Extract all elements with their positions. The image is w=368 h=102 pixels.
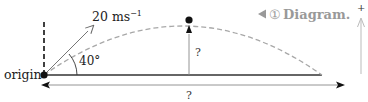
range-unknown-label: ?: [186, 89, 192, 102]
tag-pointer-icon: [258, 10, 266, 19]
apex-ball: [185, 16, 192, 23]
velocity-exponent: −1: [130, 9, 142, 18]
tag-label: Diagram.: [283, 7, 350, 22]
tag-number: ①: [269, 7, 281, 22]
origin-label: origin: [4, 67, 42, 82]
height-unknown-label: ?: [195, 46, 201, 59]
velocity-label: 20 ms−1: [92, 9, 142, 24]
angle-label: 40°: [79, 54, 100, 68]
velocity-value: 20 ms: [92, 9, 130, 24]
axis-plus-label: +: [357, 2, 365, 13]
projectile-diagram: origin 20 ms−1 40° ? ? ① Diagram. +: [0, 0, 368, 102]
